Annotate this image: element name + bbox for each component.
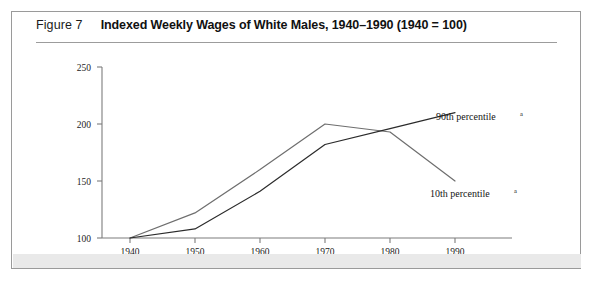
y-tick-label: 200 bbox=[77, 120, 92, 130]
annotation-90th-percentile: 90th percentile a bbox=[436, 110, 523, 122]
annotation-10th-label: 10th percentile bbox=[430, 188, 490, 199]
annotation-10th-percentile: 10th percentile a bbox=[430, 187, 517, 199]
annotation-10th-superscript: a bbox=[514, 187, 517, 194]
x-axis-ticks bbox=[130, 238, 455, 243]
y-tick-label: 150 bbox=[77, 177, 92, 187]
figure-container: Figure 7 Indexed Weekly Wages of White M… bbox=[11, 11, 581, 269]
annotation-90th-label: 90th percentile bbox=[436, 111, 496, 122]
y-axis-tick-labels: 250 200 150 100 bbox=[77, 63, 92, 244]
line-chart: 250 200 150 100 1940 1950 1960 1970 1980… bbox=[12, 12, 582, 270]
y-tick-label: 250 bbox=[77, 63, 92, 73]
y-axis-ticks bbox=[97, 67, 102, 238]
annotation-90th-superscript: a bbox=[520, 110, 523, 117]
footer-band bbox=[13, 254, 581, 268]
series-line-10th-percentile bbox=[130, 124, 455, 238]
y-tick-label: 100 bbox=[77, 234, 92, 244]
